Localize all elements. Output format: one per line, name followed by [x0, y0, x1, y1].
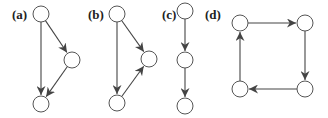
graph-node	[109, 95, 125, 111]
graph-node	[33, 6, 49, 22]
edge-arrow	[45, 21, 66, 53]
graph-node	[64, 52, 80, 68]
panel-label: (d)	[205, 7, 221, 22]
edge-arrow	[46, 67, 67, 97]
graph-node	[297, 81, 313, 97]
graph-node	[177, 98, 193, 114]
graph-node	[297, 15, 313, 31]
graph-node	[141, 51, 157, 67]
edges-layer	[41, 19, 305, 97]
graph-node	[177, 52, 193, 68]
edge-arrow	[122, 21, 144, 52]
graph-node	[232, 81, 248, 97]
panel-label: (c)	[162, 7, 176, 22]
graph-node	[177, 3, 193, 19]
diagram-canvas: (a)(b)(c)(d)	[0, 0, 328, 118]
graph-node	[232, 15, 248, 31]
panel-label: (a)	[12, 7, 27, 22]
graph-node	[109, 6, 125, 22]
graph-node	[33, 96, 49, 112]
edge-arrow	[122, 66, 144, 96]
panel-label: (b)	[88, 7, 104, 22]
